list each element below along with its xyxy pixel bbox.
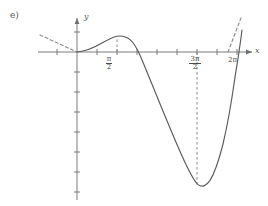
x-tick-label-pi-over-2: π 2 <box>98 56 120 71</box>
graph-figure: e) <box>0 0 268 206</box>
x-tick-label-three-pi-over-2: 3π 2 <box>183 56 207 71</box>
three-pi-over-2-denominator: 2 <box>189 63 200 71</box>
pi-over-2-denominator: 2 <box>106 63 113 71</box>
coordinate-plot <box>0 0 268 206</box>
x-axis-label: x <box>255 46 260 55</box>
left-tangent-dashed <box>40 35 77 52</box>
y-axis <box>75 18 80 200</box>
x-axis <box>38 50 252 55</box>
x-tick-label-two-pi: 2π <box>228 57 248 64</box>
pi-over-2-numerator: π <box>106 56 113 63</box>
right-tangent-dashed <box>228 18 241 52</box>
three-pi-over-2-numerator: 3π <box>189 56 200 63</box>
y-axis-label: y <box>84 12 89 21</box>
